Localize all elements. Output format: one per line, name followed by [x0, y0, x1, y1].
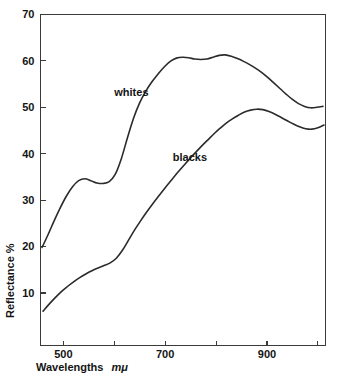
y-tick-label: 30	[22, 194, 34, 206]
y-tick-label: 50	[22, 101, 34, 113]
series-label-blacks: blacks	[173, 151, 207, 163]
x-axis-title-main: Wavelengths	[36, 361, 103, 373]
plot-area: 10203040506070 500700900 whitesblacks Re…	[0, 0, 343, 378]
y-tick-label: 40	[22, 148, 34, 160]
y-tick-label: 60	[22, 55, 34, 67]
y-axis-title: Reflectance %	[4, 243, 16, 318]
series-label-whites: whites	[113, 86, 148, 98]
x-tick-label: 700	[156, 348, 174, 360]
x-tick-label: 500	[54, 348, 72, 360]
reflectance-spectral-chart: 10203040506070 500700900 whitesblacks Re…	[0, 0, 343, 378]
figure-background	[0, 0, 343, 378]
y-tick-label: 20	[22, 240, 34, 252]
x-axis-title-unit: mμ	[112, 361, 129, 373]
x-axis-title: Wavelengths mμ	[36, 361, 128, 373]
x-tick-label: 900	[258, 348, 276, 360]
y-tick-label: 10	[22, 287, 34, 299]
y-tick-label: 70	[22, 8, 34, 20]
